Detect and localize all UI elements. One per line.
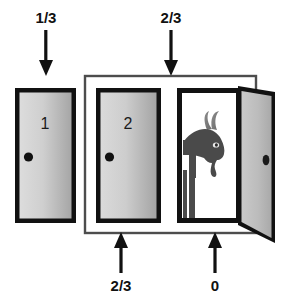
door-2-number: 2 <box>124 115 133 132</box>
label-bottom-left: 2/3 <box>111 277 132 294</box>
label-top-left: 1/3 <box>36 9 57 26</box>
door-1[interactable]: 1 <box>15 88 76 223</box>
arrow-bottom-left-shaft <box>119 245 122 273</box>
goat-pupil <box>215 143 218 146</box>
door-2[interactable]: 2 <box>96 88 161 223</box>
door-1-knob-icon[interactable] <box>24 152 33 161</box>
door-3-knob-icon[interactable] <box>263 155 270 165</box>
door-1-number: 1 <box>41 115 50 132</box>
door-3[interactable] <box>177 86 275 243</box>
arrow-top-left-shaft <box>44 30 47 64</box>
diagram-canvas: 1/3 2/3 1 2 <box>0 0 296 298</box>
monty-hall-diagram: 1/3 2/3 1 2 <box>0 0 296 298</box>
arrow-bottom-right-shaft <box>213 245 216 273</box>
arrow-top-right-shaft <box>169 30 172 64</box>
goat-rear-leg <box>183 170 187 218</box>
label-bottom-right: 0 <box>211 277 219 294</box>
door-2-knob-icon[interactable] <box>105 152 114 161</box>
goat-front-leg <box>189 170 195 218</box>
label-top-right: 2/3 <box>161 9 182 26</box>
